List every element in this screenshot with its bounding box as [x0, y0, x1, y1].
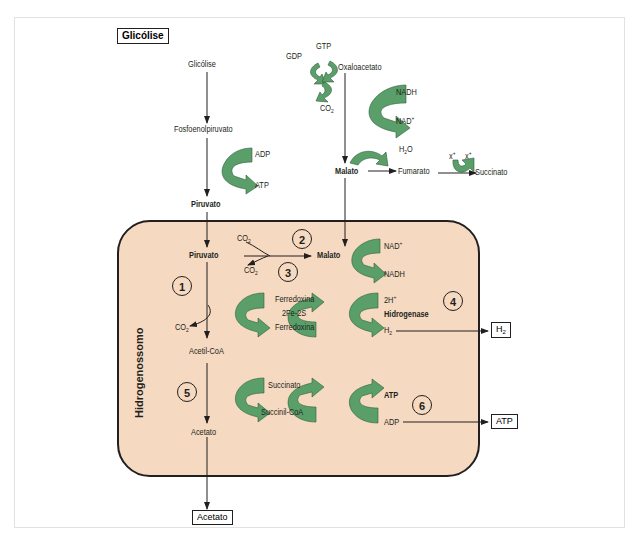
label-h2o: H2O: [399, 145, 413, 155]
label-ferredoxina-reduced: Ferredoxina: [275, 323, 314, 332]
label-hidrogenase: Hidrogenase: [384, 310, 429, 319]
label-2fe-2s: 2Fe-2S: [282, 309, 306, 318]
label-succinil-coa: Succinil-CoA: [261, 408, 303, 417]
label-succinato-cytosol: Succinato: [475, 168, 507, 177]
label-hidrogenossomo: Hidrogenossomo: [133, 328, 145, 418]
label-x-plus-2: x+: [465, 150, 472, 161]
label-gdp: GDP: [286, 52, 302, 61]
label-nadh-top: NADH: [396, 88, 417, 97]
label-gtp: GTP: [316, 42, 331, 51]
step-4: 4: [443, 291, 463, 311]
label-atp: ATP: [255, 181, 269, 190]
step-6: 6: [412, 395, 432, 415]
label-piruvato-cytosol: Piruvato: [191, 200, 221, 209]
product-h2-box: H2: [491, 322, 511, 338]
step-1: 1: [172, 276, 192, 296]
label-malato-cytosol: Malato: [335, 167, 358, 176]
label-acetil-coa: Acetil-CoA: [189, 347, 224, 356]
label-succinato: Succinato: [268, 381, 300, 390]
label-co2-top: CO2: [320, 104, 334, 114]
label-h2: H2: [384, 326, 392, 336]
label-oxaloacetato: Oxaloacetato: [338, 63, 381, 72]
label-nadh: NADH: [384, 270, 405, 279]
step-3: 3: [278, 262, 298, 282]
label-atp-inside: ATP: [384, 391, 398, 400]
label-glicolise: Glicólise: [188, 60, 216, 69]
hydrogenosome-compartment: [118, 221, 479, 476]
label-2h-plus: 2H+: [384, 294, 396, 305]
label-fumarato: Fumarato: [398, 167, 430, 176]
metabolic-diagram: Glicólise Glicólise Fosfoenolpiruvato AD…: [0, 0, 636, 540]
label-co2-in: CO2: [237, 234, 251, 244]
label-adp-inside: ADP: [384, 418, 399, 427]
label-nad-top: NAD+: [396, 115, 414, 126]
step-5: 5: [177, 382, 197, 402]
label-piruvato: Piruvato: [189, 251, 219, 260]
label-adp: ADP: [255, 150, 270, 159]
label-co2-out: CO2: [244, 266, 258, 276]
label-x-plus-1: x+: [449, 150, 456, 161]
label-malato: Malato: [317, 251, 340, 260]
step-2: 2: [292, 229, 312, 249]
label-ferredoxina-oxidized: Ferredoxina: [275, 295, 314, 304]
product-atp-box: ATP: [491, 414, 518, 429]
label-fosfoenolpiruvato: Fosfoenolpiruvato: [174, 125, 233, 134]
label-acetato: Acetato: [191, 428, 216, 437]
diagram-graphics: [0, 0, 636, 540]
label-co2-acetil: CO2: [175, 323, 189, 333]
product-acetato-box: Acetato: [192, 510, 233, 525]
label-nad-plus: NAD+: [384, 240, 402, 251]
title-glicolise-box: Glicólise: [117, 28, 169, 44]
